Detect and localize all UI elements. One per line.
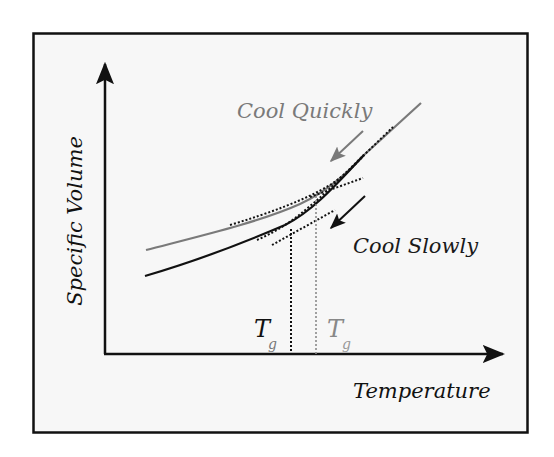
glass-transition-diagram: Cool Quickly Cool Slowly Temperature Spe… bbox=[0, 0, 554, 457]
cool-quickly-label: Cool Quickly bbox=[237, 99, 373, 123]
y-axis-label: Specific Volume bbox=[63, 136, 87, 306]
figure-frame bbox=[34, 34, 528, 433]
x-axis-label: Temperature bbox=[353, 379, 491, 403]
tg-quick-subscript: g bbox=[342, 336, 351, 352]
cool-slowly-label: Cool Slowly bbox=[353, 234, 479, 258]
tg-slow-subscript: g bbox=[268, 336, 277, 352]
